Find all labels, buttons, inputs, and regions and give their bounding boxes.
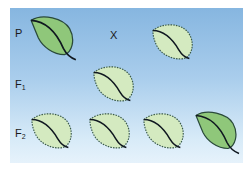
smooth-leaf-icon [28,15,80,62]
cross-symbol: X [110,29,117,41]
cross-diagram-panel: P F1 F2 X [10,8,243,163]
generation-label-p: P [15,27,22,39]
generation-label-f1: F1 [15,78,26,91]
serrated-leaf-icon [91,64,139,109]
generation-label-f2: F2 [15,127,26,140]
serrated-leaf-icon [29,111,77,156]
serrated-leaf-icon [141,111,189,156]
serrated-leaf-icon [150,22,198,67]
serrated-leaf-icon [87,111,135,156]
smooth-leaf-icon [193,110,243,156]
